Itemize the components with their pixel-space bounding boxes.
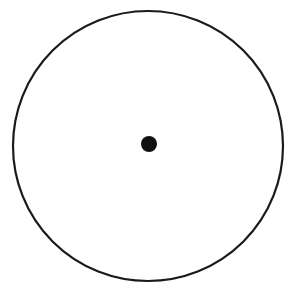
circle-diagram [0, 0, 290, 289]
diagram-canvas [0, 0, 290, 289]
center-point-dot [141, 136, 157, 152]
